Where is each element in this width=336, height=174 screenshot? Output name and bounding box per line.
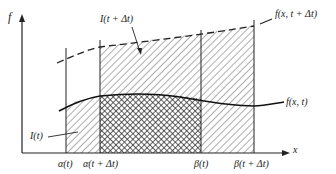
y-axis-label: f bbox=[8, 10, 11, 25]
tick-label-beta-t-dt: β(t + Δt) bbox=[234, 158, 269, 169]
curve-f-t-plus-dt-leader bbox=[260, 19, 272, 24]
region-label-i-t-dt: I(t + Δt) bbox=[100, 13, 133, 24]
curve-label-f-t-dt: f(x, t + Δt) bbox=[275, 8, 317, 19]
diagram-canvas bbox=[0, 0, 336, 174]
y-axis-arrow-icon bbox=[19, 14, 25, 22]
tick-label-alpha-t-dt: α(t + Δt) bbox=[83, 158, 118, 169]
curve-label-f-t: f(x, t) bbox=[286, 96, 308, 107]
x-axis-label: x bbox=[293, 144, 297, 155]
tick-label-alpha-t: α(t) bbox=[58, 158, 73, 169]
x-axis-arrow-icon bbox=[282, 150, 290, 156]
region-overlap bbox=[100, 94, 201, 153]
region-label-i-t: I(t) bbox=[30, 130, 43, 141]
tick-label-beta-t: β(t) bbox=[194, 158, 208, 169]
